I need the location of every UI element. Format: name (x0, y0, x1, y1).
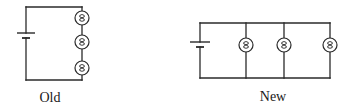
old-series-circuit (17, 7, 89, 80)
new-parallel-circuit (190, 23, 337, 78)
light-bulb-icon (75, 11, 89, 25)
battery-icon (190, 42, 210, 47)
light-bulb-icon (239, 38, 253, 52)
light-bulb-icon (277, 38, 291, 52)
light-bulb-icon (75, 35, 89, 49)
new-circuit-label: New (260, 89, 286, 105)
old-circuit-label: Old (40, 90, 61, 106)
light-bulb-icon (75, 61, 89, 75)
light-bulb-icon (323, 38, 337, 52)
battery-icon (17, 33, 35, 38)
